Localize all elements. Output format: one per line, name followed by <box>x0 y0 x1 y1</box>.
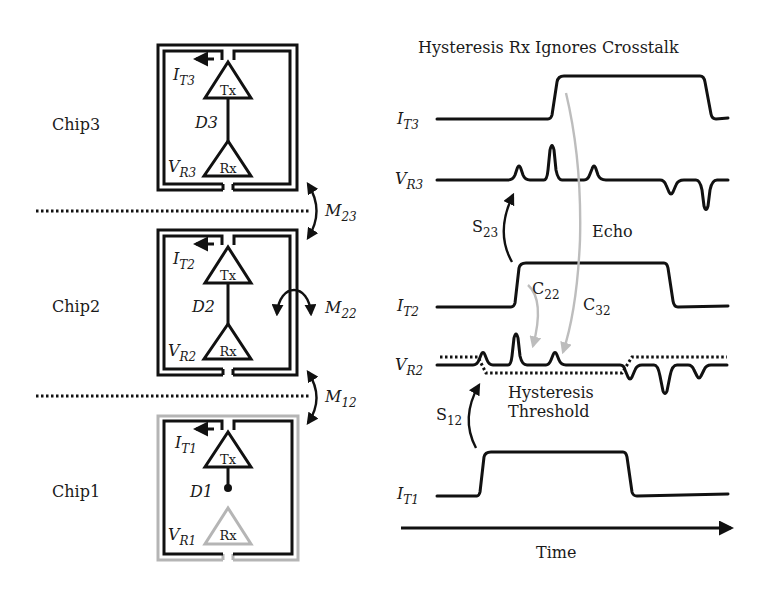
chip1-schematic: Chip1 Tx Rx D1 IT1 VR1 <box>52 416 298 560</box>
chip2-label: Chip2 <box>52 297 100 316</box>
chip2-schematic: Chip2 Tx Rx D2 IT2 VR2 <box>52 230 311 375</box>
c32-label: C32 <box>583 295 611 318</box>
s23-label: S23 <box>472 217 498 240</box>
hysteresis-label-line1: Hysteresis <box>508 383 594 402</box>
chip1-driver-node-icon <box>224 484 232 492</box>
time-axis-label: Time <box>536 543 576 562</box>
coupling-m22-arrow-icon <box>277 290 311 314</box>
chip1-rx-label: Rx <box>219 528 237 543</box>
signal-label-vr3: VR3 <box>395 169 424 192</box>
echo-label: Echo <box>592 222 633 241</box>
chip3-driver-label: D3 <box>194 113 218 132</box>
waveform-vr3 <box>437 146 728 210</box>
chip1-current-label: IT1 <box>174 433 197 456</box>
chip1-tx-label: Tx <box>220 452 237 467</box>
s12-label: S12 <box>436 405 462 428</box>
signal-label-it1: IT1 <box>396 484 419 507</box>
hysteresis-label-line2: Threshold <box>508 402 590 421</box>
signal-label-vr2: VR2 <box>395 355 423 378</box>
waveform-it3 <box>437 76 728 119</box>
echo-arrow-icon <box>563 93 580 352</box>
coupling-m12-arrow-icon <box>308 372 317 423</box>
chip3-tx-label: Tx <box>220 83 237 98</box>
coupling-m23-arrow-icon <box>308 184 317 238</box>
chip3-current-label: IT3 <box>172 65 195 88</box>
chip2-rx-label: Rx <box>219 344 237 359</box>
chip1-driver-label: D1 <box>189 482 213 501</box>
s12-arrow-icon <box>469 385 479 448</box>
coupling-m12-label: M12 <box>324 387 357 410</box>
waveform-it1 <box>437 452 728 496</box>
chip3-rx-label: Rx <box>219 161 237 176</box>
chip1-label: Chip1 <box>52 482 100 501</box>
waveform-title: Hysteresis Rx Ignores Crosstalk <box>418 38 679 57</box>
crosstalk-diagram: Chip3 Tx Rx D3 IT3 VR3 M23 Chip2 Tx Rx D… <box>0 0 773 591</box>
chip3-label: Chip3 <box>52 115 100 134</box>
chip2-voltage-label: VR2 <box>168 341 196 364</box>
chip1-voltage-label: VR1 <box>168 525 196 548</box>
chip2-current-label: IT2 <box>172 249 195 272</box>
s23-arrow-icon <box>504 195 513 262</box>
signal-label-it3: IT3 <box>396 109 419 132</box>
signal-label-it2: IT2 <box>396 296 419 319</box>
coupling-m23-label: M23 <box>324 201 357 224</box>
chip3-voltage-label: VR3 <box>168 157 197 180</box>
chip3-schematic: Chip3 Tx Rx D3 IT3 VR3 <box>52 45 297 190</box>
chip2-driver-label: D2 <box>191 297 215 316</box>
coupling-m22-label: M22 <box>324 298 357 321</box>
chip2-tx-label: Tx <box>220 268 237 283</box>
